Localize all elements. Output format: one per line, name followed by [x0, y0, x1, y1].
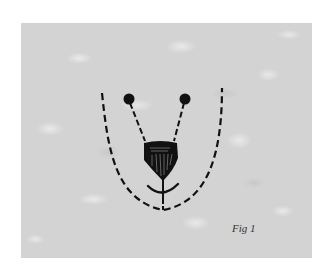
figure-caption: Fig 1 [232, 222, 256, 234]
face-diagram [0, 0, 326, 271]
right-eye-icon [180, 94, 191, 105]
left-eye-line [130, 103, 145, 141]
left-eye-icon [124, 94, 135, 105]
right-eye-line [174, 103, 184, 141]
